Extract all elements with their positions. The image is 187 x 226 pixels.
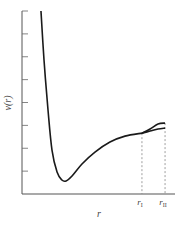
potential-energy-chart: rIrII r v(r) [0, 0, 187, 226]
x-axis-label: r [97, 208, 101, 219]
y-axis-label: v(r) [2, 95, 14, 111]
x-tick-label-1: rI [137, 197, 143, 208]
series-main-curve [41, 11, 142, 181]
x-tick-label-2: rII [159, 197, 167, 208]
